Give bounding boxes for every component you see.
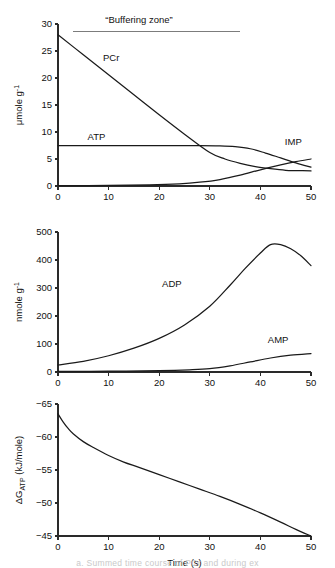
y-tick-label-middle: 200: [36, 310, 52, 321]
y-tick-label-top: 0: [47, 180, 52, 191]
x-tick-label-top: 10: [103, 191, 114, 202]
x-tick-label-bottom: 30: [205, 541, 216, 552]
x-tick-label-top: 0: [55, 191, 60, 202]
y-tick-label-top: 15: [41, 99, 52, 110]
axis-spines-top: [58, 24, 311, 186]
y-tick-label-top: 25: [41, 45, 52, 56]
panel-bottom: −65−60−55−50−4501020304050ΔGATP (kJ/mole…: [13, 398, 316, 568]
x-tick-label-bottom: 20: [154, 541, 165, 552]
y-tick-label-bottom: −65: [36, 398, 52, 409]
x-tick-label-middle: 50: [306, 377, 317, 388]
series-label-ADP: ADP: [162, 278, 182, 289]
x-tick-label-top: 30: [205, 191, 216, 202]
panel-top: 05101520253001020304050μmole g-1“Bufferi…: [13, 14, 317, 202]
curve-IMP: [58, 159, 311, 186]
multi-panel-line-chart: 05101520253001020304050μmole g-1“Bufferi…: [0, 0, 335, 568]
x-tick-label-middle: 30: [205, 377, 216, 388]
y-tick-label-top: 20: [41, 72, 52, 83]
axis-spines-bottom: [58, 404, 311, 536]
x-tick-label-bottom: 0: [55, 541, 60, 552]
y-tick-label-middle: 500: [36, 226, 52, 237]
curve-ADP: [58, 244, 311, 365]
x-tick-label-middle: 20: [154, 377, 165, 388]
figure-caption-partial: a. Summed time course of PCr and during …: [0, 557, 335, 568]
y-tick-label-top: 30: [41, 18, 52, 29]
x-tick-label-middle: 10: [103, 377, 114, 388]
curve-PCr: [58, 35, 311, 171]
series-label-ATP: ATP: [88, 131, 106, 142]
figure-panel-stack: 05101520253001020304050μmole g-1“Bufferi…: [0, 0, 335, 568]
axis-spines-middle: [58, 232, 311, 372]
x-tick-label-top: 50: [306, 191, 317, 202]
curve-dG_ATP: [58, 414, 311, 536]
y-axis-title-top: μmole g-1: [13, 85, 25, 125]
y-tick-label-top: 5: [47, 153, 52, 164]
y-tick-label-bottom: −60: [36, 431, 52, 442]
series-label-IMP: IMP: [285, 136, 302, 147]
curve-AMP: [58, 354, 311, 372]
curve-ATP: [58, 145, 311, 167]
panel-middle: 010020030040050001020304050nmole g-1ADPA…: [13, 226, 317, 388]
x-tick-label-middle: 40: [255, 377, 266, 388]
y-tick-label-bottom: −55: [36, 464, 52, 475]
annotation-label-top: “Buffering zone”: [105, 14, 172, 25]
y-tick-label-middle: 0: [47, 366, 52, 377]
y-tick-label-middle: 300: [36, 282, 52, 293]
y-tick-label-middle: 100: [36, 338, 52, 349]
x-tick-label-bottom: 40: [255, 541, 266, 552]
x-tick-label-bottom: 50: [306, 541, 317, 552]
y-tick-label-top: 10: [41, 126, 52, 137]
y-tick-label-bottom: −50: [36, 497, 52, 508]
y-tick-label-bottom: −45: [36, 530, 52, 541]
x-tick-label-middle: 0: [55, 377, 60, 388]
x-tick-label-bottom: 10: [103, 541, 114, 552]
x-tick-label-top: 40: [255, 191, 266, 202]
series-label-AMP: AMP: [268, 334, 289, 345]
y-axis-title-bottom: ΔGATP (kJ/mole): [13, 436, 26, 505]
y-axis-title-middle: nmole g-1: [13, 282, 25, 322]
x-tick-label-top: 20: [154, 191, 165, 202]
y-tick-label-middle: 400: [36, 254, 52, 265]
series-label-PCr: PCr: [103, 52, 119, 63]
